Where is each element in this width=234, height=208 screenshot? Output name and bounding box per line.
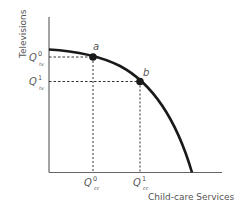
y-axis-label: Televisions xyxy=(18,9,28,59)
ppf-curve xyxy=(49,50,192,173)
svg-text:Q: Q xyxy=(133,177,141,188)
svg-text:Q: Q xyxy=(29,76,37,87)
x-axis-label: Child-care Services xyxy=(148,192,234,202)
point-b-label: b xyxy=(143,67,149,78)
x-tick-q0cc: Q 0 cc xyxy=(84,175,100,191)
y-tick-q1tv: Q 1 tv xyxy=(29,74,45,91)
svg-text:1: 1 xyxy=(142,175,146,183)
svg-text:cc: cc xyxy=(94,185,100,191)
svg-text:tv: tv xyxy=(39,85,45,91)
point-a-marker xyxy=(89,53,97,61)
svg-text:Q: Q xyxy=(29,52,37,63)
point-b-marker xyxy=(136,78,144,86)
svg-text:Q: Q xyxy=(84,177,92,188)
point-a-label: a xyxy=(93,41,99,52)
svg-text:1: 1 xyxy=(38,74,42,82)
svg-text:0: 0 xyxy=(93,175,97,183)
svg-text:0: 0 xyxy=(38,50,42,58)
y-tick-q0tv: Q 0 tv xyxy=(29,50,45,67)
x-tick-q1cc: Q 1 cc xyxy=(133,175,149,191)
svg-text:tv: tv xyxy=(39,61,45,67)
ppf-chart: a b Televisions Q 0 tv Q 1 tv Q 0 cc Q 1… xyxy=(0,0,234,208)
svg-text:cc: cc xyxy=(143,185,149,191)
